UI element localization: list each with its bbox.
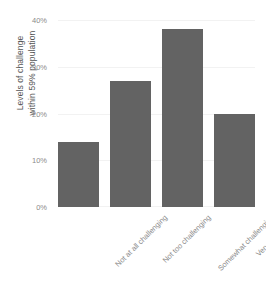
bar-chart: Levels of challenge within 59% populatio… <box>0 0 266 286</box>
bar-slot-3 <box>214 20 255 207</box>
y-tick-label-10: 10% <box>32 156 47 165</box>
bar-very-challenging <box>214 114 255 208</box>
y-tick-label-30: 30% <box>32 62 47 71</box>
bar-series <box>58 20 255 207</box>
bar-slot-0 <box>58 20 99 207</box>
y-tick-label-0: 0% <box>36 203 47 212</box>
plot-area <box>58 20 255 207</box>
bar-not-at-all-challenging <box>58 142 99 207</box>
x-tick-label-2: Somewhat challenging <box>216 213 266 273</box>
x-axis-tick-labels: Not at all challenging Not too challengi… <box>58 207 255 286</box>
y-tick-label-40: 40% <box>32 16 47 25</box>
bar-slot-1 <box>110 20 151 207</box>
bar-slot-2 <box>162 20 203 207</box>
y-axis-tick-labels: 40% 30% 20% 10% 0% <box>0 0 54 286</box>
x-tick-label-1: Not too challenging <box>161 213 213 265</box>
bar-somewhat-challenging <box>162 29 203 207</box>
bar-not-too-challenging <box>110 81 151 207</box>
x-tick-label-0: Not at all challenging <box>113 213 169 269</box>
y-tick-label-20: 20% <box>32 109 47 118</box>
